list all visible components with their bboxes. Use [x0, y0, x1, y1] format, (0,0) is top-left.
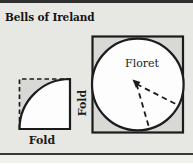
floret-label: Floret	[125, 57, 159, 70]
footer-strip	[0, 155, 193, 164]
fold-label-side: Fold	[76, 90, 89, 116]
fold-label-bottom: Fold	[29, 134, 55, 147]
diagram-panel: Bells of Ireland Fold Fold Floret	[0, 0, 193, 163]
